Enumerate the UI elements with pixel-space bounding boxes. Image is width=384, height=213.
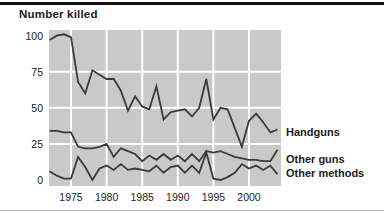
- x-tick-label: 1975: [54, 191, 88, 203]
- y-tick-label: 0: [12, 174, 43, 186]
- line-chart: [0, 0, 384, 213]
- x-tick-label: 1985: [125, 191, 159, 203]
- x-tick-label: 2000: [232, 191, 266, 203]
- x-tick-label: 1980: [90, 191, 124, 203]
- x-tick-label: 1990: [161, 191, 195, 203]
- bottom-divider: [0, 210, 384, 211]
- y-tick-label: 75: [12, 66, 43, 78]
- series-label-other-guns: Other guns: [286, 153, 345, 166]
- y-tick-label: 100: [12, 30, 43, 42]
- y-tick-label: 25: [12, 138, 43, 150]
- series-label-other-methods: Other methods: [286, 167, 364, 180]
- y-tick-label: 50: [12, 102, 43, 114]
- series-label-handguns: Handguns: [286, 126, 340, 139]
- x-tick-label: 1995: [196, 191, 230, 203]
